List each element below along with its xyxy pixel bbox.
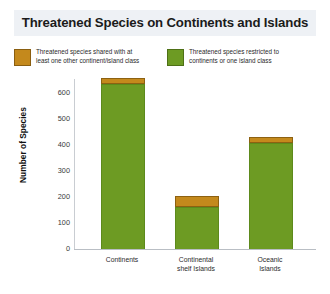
plot-area [74, 79, 317, 250]
bar-segment-shared-oceanic-islands[interactable] [249, 137, 293, 143]
legend-label-restricted-line2: continents or one island class [189, 56, 315, 65]
bar-segment-restricted-continents[interactable] [101, 84, 145, 250]
legend-swatch-orange-icon [14, 49, 31, 66]
bar-segment-shared-continents[interactable] [101, 78, 145, 84]
y-axis-label: Number of Species [18, 80, 28, 210]
x-tick-continents: Continents [83, 255, 161, 264]
y-tick-600: 600 [44, 89, 70, 97]
x-tick-oceanic-islands: Oceanic Islands [231, 255, 309, 273]
x-tick-continental-shelf-islands-line1: Continental [179, 256, 213, 263]
x-tick-continental-shelf-islands-line2: shelf Islands [157, 264, 235, 273]
legend-swatch-green-icon [167, 49, 184, 66]
legend-item-shared: Threatened species shared with at least … [12, 46, 164, 72]
y-tick-0: 0 [44, 245, 70, 253]
bar-segment-shared-continental-shelf-islands[interactable] [175, 196, 219, 207]
y-tick-400: 400 [44, 141, 70, 149]
legend-label-restricted-line1: Threatened species restricted to [189, 48, 279, 55]
x-tick-oceanic-islands-line2: Islands [231, 264, 309, 273]
y-axis-ticks: 600 500 400 300 200 100 0 [40, 0, 70, 294]
legend-item-restricted: Threatened species restricted to contine… [165, 46, 318, 72]
y-tick-100: 100 [44, 219, 70, 227]
bar-segment-restricted-oceanic-islands[interactable] [249, 143, 293, 250]
x-axis-baseline [74, 249, 316, 250]
chart-figure: Threatened Species on Continents and Isl… [0, 0, 330, 294]
x-tick-continents-line1: Continents [106, 256, 139, 263]
legend-label-restricted: Threatened species restricted to contine… [189, 47, 315, 66]
y-tick-200: 200 [44, 193, 70, 201]
y-tick-500: 500 [44, 115, 70, 123]
x-tick-continental-shelf-islands: Continental shelf Islands [157, 255, 235, 273]
y-tick-300: 300 [44, 167, 70, 175]
x-tick-oceanic-islands-line1: Oceanic [258, 256, 283, 263]
bar-segment-restricted-continental-shelf-islands[interactable] [175, 207, 219, 250]
